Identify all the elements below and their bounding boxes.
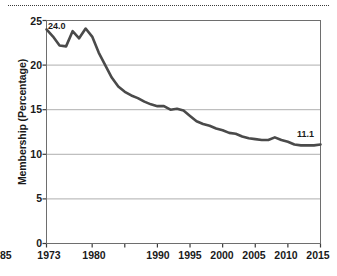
plot-area: [0, 0, 337, 276]
annotation-start-value: 24.0: [48, 22, 66, 31]
dotted-separator-rule: [8, 5, 329, 6]
y-tick-label-10: 10: [22, 149, 42, 160]
y-axis-tick-labels: 25 20 15 10 5 0: [22, 0, 42, 276]
x-tick-label-1985: 1985: [0, 250, 20, 261]
y-tick-label-15: 15: [22, 104, 42, 115]
x-tick-label-1973: 1973: [29, 250, 69, 261]
y-tick-label-0: 0: [22, 238, 42, 249]
y-tick-label-25: 25: [22, 16, 42, 27]
plot-frame: [47, 21, 321, 244]
y-tick-label-5: 5: [22, 193, 42, 204]
axis-ticks: [43, 21, 321, 248]
data-series-line: [47, 29, 321, 146]
annotation-end-value: 11.1: [297, 130, 314, 139]
x-tick-label-1980: 1980: [74, 250, 114, 261]
x-tick-label-2015: 2015: [298, 250, 337, 261]
y-tick-label-20: 20: [22, 60, 42, 71]
chart-figure: Membership (Percentage) 25 20 15 10 5 0 …: [0, 0, 337, 276]
